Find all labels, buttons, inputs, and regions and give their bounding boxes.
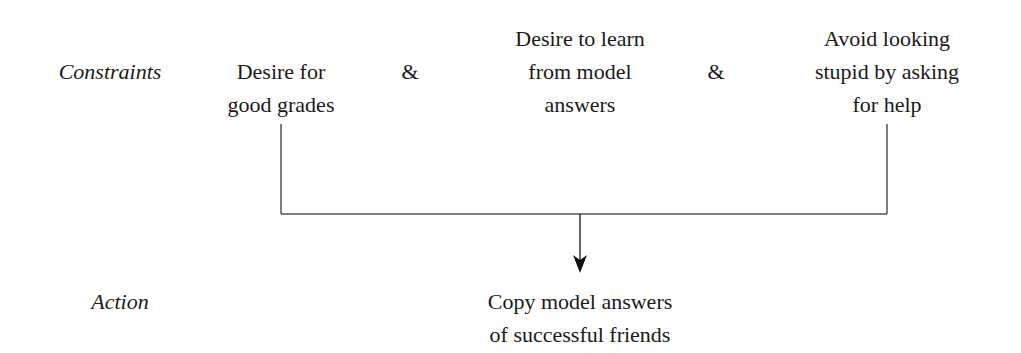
- action-copy-model-answers: Copy model answers of successful friends: [460, 285, 700, 351]
- action-row-label: Action: [50, 285, 190, 318]
- action-line: Copy model answers: [460, 285, 700, 318]
- action-line: of successful friends: [460, 318, 700, 351]
